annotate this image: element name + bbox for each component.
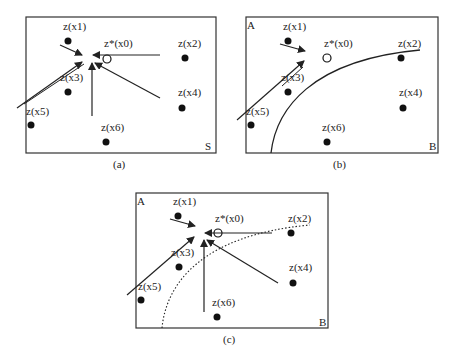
target-point (323, 54, 331, 62)
point-label: z(x4) (289, 261, 313, 274)
point-label: z(x3) (281, 71, 305, 84)
corner-label-a: A (137, 195, 145, 207)
boundary-curve (271, 50, 420, 153)
data-point-x4 (400, 105, 407, 112)
corner-label-a: A (247, 19, 255, 31)
data-point-x6 (324, 139, 331, 146)
point-label: z(x6) (322, 121, 346, 134)
arrow (17, 62, 82, 108)
corner-label-b: B (429, 140, 436, 152)
point-label: z(x6) (101, 121, 125, 134)
data-point-x4 (290, 280, 297, 287)
data-point-x1 (175, 213, 182, 220)
data-point-x4 (179, 105, 186, 112)
corner-label-b: B (319, 316, 326, 328)
data-point-x2 (182, 55, 189, 62)
target-label: z*(x0) (104, 37, 133, 50)
panel-caption: (b) (333, 158, 346, 171)
arrow (170, 219, 195, 226)
data-point-x2 (398, 55, 405, 62)
data-point-x1 (65, 38, 72, 45)
arrow (207, 240, 278, 283)
arrow-shadow (24, 64, 84, 104)
point-label: z(x4) (178, 86, 202, 99)
arrow (60, 45, 82, 55)
data-point-x3 (176, 264, 183, 271)
data-point-x6 (103, 139, 110, 146)
point-label: z(x1) (173, 195, 197, 208)
point-label: z(x6) (212, 296, 236, 309)
arrow (95, 63, 160, 98)
target-label: z*(x0) (215, 212, 244, 225)
point-label: z(x3) (171, 246, 195, 259)
panel-c: A z(x1) z*(x0) z(x2) z(x3) z(x4) z(x5) z… (127, 193, 328, 346)
kriging-diagram: z(x1) z*(x0) z(x2) z(x3) z(x4) z(x5) z(x… (0, 0, 453, 358)
panel-caption: (c) (223, 333, 236, 346)
corner-label-s: S (205, 140, 211, 152)
data-point-x6 (214, 314, 221, 321)
point-label: z(x2) (178, 37, 202, 50)
point-label: z(x5) (138, 280, 162, 293)
point-label: z(x1) (63, 20, 87, 33)
data-point-x5 (28, 122, 35, 129)
point-label: z(x1) (283, 20, 307, 33)
data-point-x3 (65, 89, 72, 96)
point-label: z(x2) (398, 37, 422, 50)
panel-b: A z(x1) z*(x0) z(x2) z(x3) z(x4) z(x5) z… (237, 17, 438, 171)
point-label: z(x2) (288, 212, 312, 225)
data-point-x5 (248, 122, 255, 129)
data-point-x2 (288, 230, 295, 237)
data-point-x1 (285, 38, 292, 45)
target-point (103, 55, 111, 63)
point-label: z(x5) (26, 105, 50, 118)
data-point-x5 (138, 297, 145, 304)
point-label: z(x5) (246, 105, 270, 118)
target-label: z*(x0) (324, 37, 353, 50)
arrow (280, 44, 305, 51)
panel-caption: (a) (113, 158, 126, 171)
data-point-x3 (285, 89, 292, 96)
point-label: z(x4) (399, 86, 423, 99)
point-label: z(x3) (60, 71, 84, 84)
boundary-curve-dotted (162, 225, 310, 328)
panel-a: z(x1) z*(x0) z(x2) z(x3) z(x4) z(x5) z(x… (17, 17, 216, 171)
